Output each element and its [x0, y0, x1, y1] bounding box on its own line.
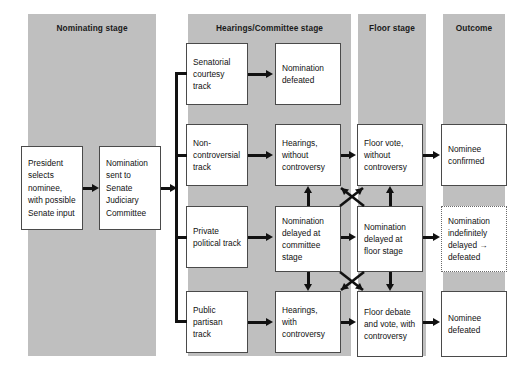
connector-hearings-with-to-floor-debate — [341, 321, 349, 324]
connector-floor-debate-to-nominee-defeated — [423, 321, 433, 324]
arrowhead-hearings-with-to-floor-debate — [349, 318, 356, 326]
arrowhead-delayed-floor-to-floor-debate — [386, 284, 394, 291]
box-nominee-confirmed: Nominee confirmed — [441, 124, 507, 186]
connector-senatorial-to-defeated — [248, 73, 266, 76]
column-label-outcome: Outcome — [443, 23, 505, 33]
box-label: President selects nominee, with possible… — [28, 157, 76, 219]
box-public-partisan-track: Public partisan track — [186, 291, 248, 353]
connector-floor-vote-to-nominee-confirmed — [423, 154, 433, 157]
crossover-lower — [330, 269, 370, 293]
box-hearings-without-controversy: Hearings, without controversy — [275, 124, 341, 186]
box-floor-debate-and-vote-with-controversy: Floor debate and vote, with controversy — [357, 291, 423, 357]
arrowhead-private-to-delayed-committee — [266, 233, 273, 241]
column-label-floor-stage: Floor stage — [358, 23, 426, 33]
box-label: Nomination delayed at floor stage — [364, 221, 416, 258]
arrowhead-delayed-floor-to-floor-vote — [386, 186, 394, 193]
arrowhead-delayed-committee-to-hearings-without — [304, 186, 312, 193]
box-senatorial-courtesy-track: Senatorial courtesy track — [186, 43, 248, 105]
box-label: Nominee confirmed — [448, 143, 500, 167]
connector-president-to-judiciary — [83, 187, 92, 190]
connector-delayed-floor-to-floor-vote — [389, 193, 392, 206]
box-label: Nomination sent to Senate Judiciary Comm… — [106, 157, 154, 219]
arrowhead-delayed-committee-to-hearings-with — [304, 284, 312, 291]
arrowhead-hearings-without-to-floor-vote — [349, 151, 356, 159]
box-president-selects-nominee: President selects nominee, with possible… — [21, 146, 83, 230]
connector-delayed-committee-to-delayed-floor — [341, 236, 349, 239]
box-label: Private political track — [193, 225, 241, 249]
box-hearings-with-controversy: Hearings, with controversy — [275, 291, 341, 353]
arrowhead-floor-debate-to-nominee-defeated — [433, 318, 440, 326]
box-label: Hearings, without controversy — [282, 137, 334, 174]
connector-branch-to-senatorial — [175, 72, 187, 75]
box-nomination-delayed-at-floor-stage: Nomination delayed at floor stage — [357, 206, 423, 272]
column-label-hearings-stage: Hearings/Committee stage — [188, 23, 351, 33]
box-label: Floor vote, without controversy — [364, 137, 416, 174]
connector-branch-to-noncontroversial — [175, 154, 187, 157]
connector-branch-to-private — [175, 236, 187, 239]
connector-noncontroversial-to-hearings — [248, 154, 266, 157]
box-nomination-defeated: Nomination defeated — [275, 43, 341, 105]
arrowhead-delayed-floor-to-indefinitely-delayed — [433, 233, 440, 241]
box-floor-vote-without-controversy: Floor vote, without controversy — [357, 124, 423, 186]
crossover-upper — [330, 184, 370, 208]
connector-public-to-hearings-with — [248, 321, 266, 324]
arrowhead-floor-vote-to-nominee-confirmed — [433, 151, 440, 159]
connector-branch-spine — [175, 72, 178, 322]
box-label: Floor debate and vote, with controversy — [364, 306, 416, 343]
connector-private-to-delayed-committee — [248, 236, 266, 239]
box-nominee-defeated: Nominee defeated — [441, 291, 507, 357]
connector-delayed-floor-to-indefinitely-delayed — [423, 236, 433, 239]
box-nomination-delayed-at-committee-stage: Nomination delayed at committee stage — [275, 206, 341, 272]
box-label: Nomination indefinitely delayed → defeat… — [448, 215, 500, 264]
arrowhead-senatorial-to-defeated — [266, 70, 273, 78]
box-label: Non-controversial track — [193, 137, 241, 174]
arrowhead-public-to-hearings-with — [266, 318, 273, 326]
box-non-controversial-track: Non-controversial track — [186, 124, 248, 186]
connector-hearings-without-to-floor-vote — [341, 154, 349, 157]
arrowhead-noncontroversial-to-hearings — [266, 151, 273, 159]
box-label: Hearings, with controversy — [282, 304, 334, 341]
box-label: Nomination delayed at committee stage — [282, 215, 334, 264]
box-nomination-sent-to-judiciary: Nomination sent to Senate Judiciary Comm… — [99, 146, 161, 230]
box-private-political-track: Private political track — [186, 206, 248, 268]
box-label: Nomination defeated — [282, 62, 334, 86]
box-nomination-indefinitely-delayed-defeated: Nomination indefinitely delayed → defeat… — [441, 206, 507, 272]
arrowhead-president-to-judiciary — [92, 184, 99, 192]
connector-branch-to-public — [175, 320, 187, 323]
box-label: Senatorial courtesy track — [193, 56, 241, 93]
box-label: Public partisan track — [193, 304, 241, 341]
connector-delayed-committee-to-hearings-without — [307, 193, 310, 206]
connector-delayed-floor-to-floor-debate — [389, 272, 392, 284]
column-label-nominating-stage: Nominating stage — [28, 23, 156, 33]
arrowhead-delayed-committee-to-delayed-floor — [349, 233, 356, 241]
flowchart-canvas: Nominating stage Hearings/Committee stag… — [0, 0, 523, 372]
connector-delayed-committee-to-hearings-with — [307, 272, 310, 284]
box-label: Nominee defeated — [448, 312, 500, 336]
